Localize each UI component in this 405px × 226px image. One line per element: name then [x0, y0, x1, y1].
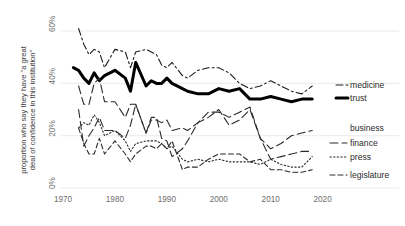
- series-label-press: press: [350, 152, 371, 162]
- series-label-legislature: legislature: [350, 170, 389, 180]
- y-axis-title-line2: deal of confidence in this institution": [28, 49, 37, 170]
- ytick-label-20%: 20%: [48, 120, 57, 136]
- y-axis-title-line1: proportion who say they have "a great: [19, 45, 28, 174]
- line-chart: 0%20%40%60%197019801990200020102020propo…: [0, 0, 405, 226]
- xtick-label-1980: 1980: [106, 195, 125, 204]
- xtick-label-1970: 1970: [54, 195, 73, 204]
- series-label-trust: trust: [350, 93, 367, 103]
- ytick-label-40%: 40%: [48, 68, 57, 84]
- series-label-medicine: medicine: [350, 80, 385, 90]
- series-line-trust: [73, 62, 312, 101]
- series-label-business: business: [350, 123, 384, 133]
- xtick-label-1990: 1990: [158, 195, 177, 204]
- xtick-label-2000: 2000: [210, 195, 229, 204]
- ytick-label-60%: 60%: [48, 16, 57, 32]
- series-line-finance: [79, 78, 313, 159]
- series-line-legislature: [79, 128, 313, 172]
- series-line-medicine: [79, 28, 313, 93]
- xtick-label-2020: 2020: [314, 195, 333, 204]
- chart-container: 0%20%40%60%197019801990200020102020propo…: [0, 0, 405, 226]
- ytick-label-0%: 0%: [48, 177, 57, 189]
- y-axis-title: proportion who say they have "a greatdea…: [19, 45, 37, 174]
- series-line-press: [79, 115, 313, 167]
- xtick-label-2010: 2010: [262, 195, 281, 204]
- series-label-finance: finance: [350, 138, 378, 148]
